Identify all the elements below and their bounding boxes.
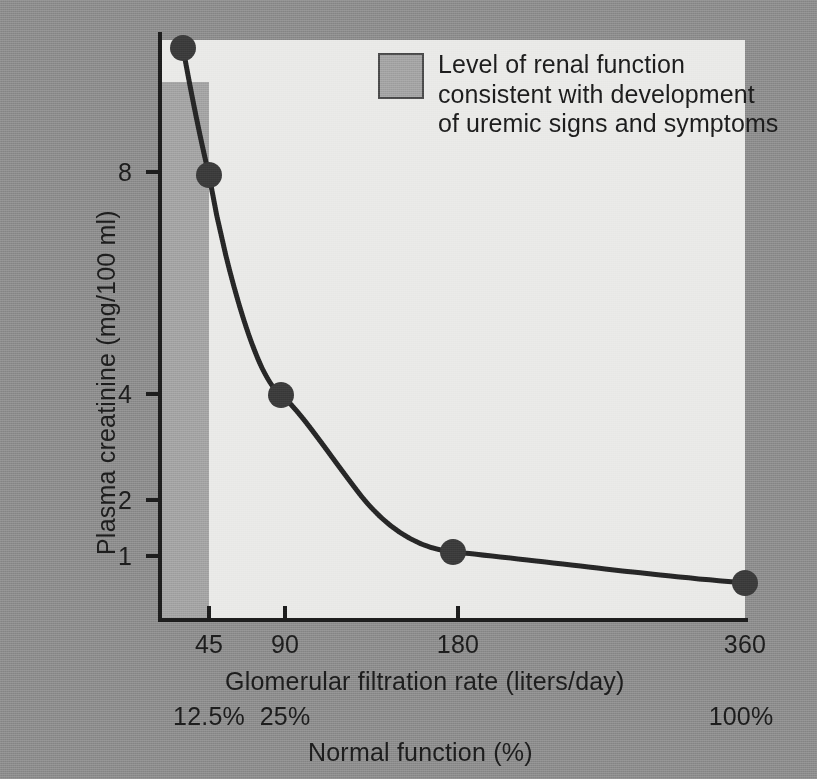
x-percent-label-12-5: 12.5% [159, 702, 259, 731]
data-point [732, 570, 758, 596]
secondary-x-axis-title: Normal function (%) [308, 738, 533, 767]
uremic-band-swatch [378, 53, 424, 99]
data-point [170, 35, 196, 61]
x-axis-title: Glomerular filtration rate (liters/day) [225, 667, 625, 696]
data-point [196, 162, 222, 188]
x-tick-label-90: 90 [255, 630, 315, 659]
legend: Level of renal function consistent with … [378, 50, 778, 139]
legend-text: Level of renal function consistent with … [438, 50, 778, 139]
x-tick-label-45: 45 [179, 630, 239, 659]
x-tick-label-360: 360 [711, 630, 779, 659]
x-percent-label-25: 25% [247, 702, 323, 731]
data-point [268, 382, 294, 408]
data-point [440, 539, 466, 565]
y-axis-title: Plasma creatinine (mg/100 ml) [92, 210, 121, 555]
x-tick-label-180: 180 [424, 630, 492, 659]
x-percent-label-100: 100% [693, 702, 789, 731]
legend-line-3: of uremic signs and symptoms [438, 109, 778, 139]
y-tick-label-8: 8 [86, 158, 132, 187]
legend-line-1: Level of renal function [438, 50, 778, 80]
legend-line-2: consistent with development [438, 80, 778, 110]
figure-root: 8 4 2 1 Plasma creatinine (mg/100 ml) 45… [0, 0, 817, 779]
